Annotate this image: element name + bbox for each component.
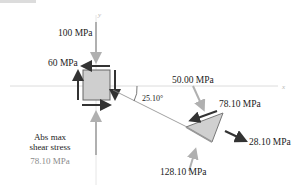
inclined-plane <box>113 86 187 127</box>
summary-title-line2: shear stress <box>20 143 80 152</box>
y-axis-label: y <box>98 12 101 19</box>
angle-label: 25.10° <box>142 95 163 103</box>
angle-arc <box>134 86 137 101</box>
plane-shear-stress-label: 78.10 MPa <box>219 100 261 110</box>
principal-compression-label: 128.10 MPa <box>160 168 206 178</box>
normal-stress-y-label: 100 MPa <box>58 29 93 39</box>
abs-max-shear-summary: Abs max shear stress 78.10 MPa <box>20 133 80 166</box>
stress-diagram: y x 100 MPa 60 MPa 25.10° 50.00 MPa 78.1… <box>0 0 303 190</box>
summary-title-line1: Abs max <box>20 133 80 142</box>
principal-tension-label: 28.10 MPa <box>249 138 291 148</box>
shear-stress-label: 60 MPa <box>48 59 78 69</box>
principal-tension-arrow <box>225 131 244 140</box>
stress-element <box>83 70 110 100</box>
normal-on-plane-arrow <box>193 86 203 108</box>
x-axis-label: x <box>282 84 285 91</box>
summary-value: 78.10 MPa <box>20 157 80 166</box>
plane-normal-stress-label: 50.00 MPa <box>172 76 214 86</box>
